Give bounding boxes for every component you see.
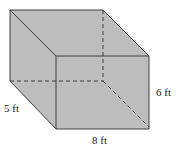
- height-label: 6 ft: [156, 86, 171, 98]
- prism-body: [10, 10, 149, 129]
- width-label: 5 ft: [4, 102, 19, 114]
- length-label: 8 ft: [92, 134, 107, 146]
- rectangular-prism-diagram: 5 ft 6 ft 8 ft: [0, 0, 178, 149]
